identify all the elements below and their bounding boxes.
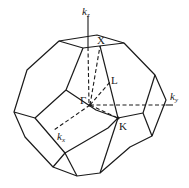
gamma-to-k-line bbox=[90, 105, 118, 118]
gamma-point-label: Γ bbox=[80, 94, 86, 106]
x-point-label: X bbox=[97, 34, 105, 46]
edge-hex-left bbox=[14, 90, 66, 118]
top-square-face bbox=[59, 41, 124, 48]
edge-right-upper bbox=[143, 75, 155, 113]
kz-axis-dashed bbox=[88, 47, 89, 104]
gamma-point bbox=[88, 103, 91, 106]
edge-hex-to-k bbox=[65, 118, 118, 153]
kz-label: kz bbox=[82, 5, 90, 19]
brillouin-zone-diagram: kz ky kx X L Γ K bbox=[0, 0, 189, 188]
ky-label: ky bbox=[170, 90, 179, 104]
gamma-to-x-line bbox=[90, 46, 100, 105]
kx-label: kx bbox=[57, 130, 66, 144]
edge-top-to-hex bbox=[66, 48, 83, 90]
k-point-label: K bbox=[119, 120, 127, 132]
edge-right-lower bbox=[143, 113, 152, 136]
edge-k-right bbox=[118, 113, 143, 118]
kx-axis-dashed bbox=[54, 105, 90, 130]
l-point-label: L bbox=[111, 74, 118, 86]
